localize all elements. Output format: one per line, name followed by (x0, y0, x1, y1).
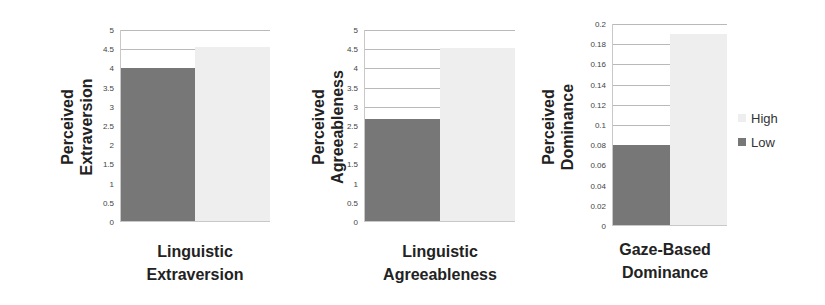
x-axis-label-line1: Linguistic (360, 240, 520, 263)
bar-low (120, 68, 195, 222)
plot-area: 00.020.040.060.080.10.120.140.160.180.2 (612, 24, 727, 226)
y-tick-label: 2.5 (84, 122, 114, 131)
y-axis (612, 24, 613, 226)
legend-label-high: High (751, 111, 778, 126)
y-axis (120, 30, 121, 222)
x-axis-label-line1: Gaze-Based (595, 238, 735, 261)
y-axis-label-line1: Perceived (58, 52, 77, 202)
x-axis (364, 221, 515, 222)
x-axis-label-line2: Agreeableness (360, 263, 520, 286)
legend-item-low: Low (738, 130, 778, 154)
bar-low (364, 119, 440, 222)
x-axis-label: Linguistic Agreeableness (360, 240, 520, 286)
y-tick-label: 0.16 (576, 60, 606, 69)
y-tick-label: 0.08 (576, 141, 606, 150)
y-tick-label: 2.5 (328, 122, 358, 131)
gridline (364, 30, 515, 31)
bar-high (195, 47, 270, 222)
legend-swatch-high (738, 114, 746, 122)
legend: High Low (738, 106, 778, 154)
y-tick-label: 0.5 (328, 198, 358, 207)
y-tick-label: 4.5 (328, 45, 358, 54)
y-tick-label: 2 (84, 141, 114, 150)
y-tick-label: 4 (328, 64, 358, 73)
bar-high (670, 34, 728, 226)
legend-item-high: High (738, 106, 778, 130)
plot-area: 00.511.522.533.544.55 (364, 30, 515, 222)
x-axis-label-line1: Linguistic (120, 240, 270, 263)
y-axis (364, 30, 365, 222)
y-axis-label-line1: Perceived (309, 47, 328, 207)
y-tick-label: 4 (84, 64, 114, 73)
y-tick-label: 0.5 (84, 198, 114, 207)
y-tick-label: 1 (328, 179, 358, 188)
y-tick-label: 0.14 (576, 80, 606, 89)
y-axis-label: Perceived Dominance (539, 52, 577, 202)
chart-dominance: Perceived Dominance 00.020.040.060.080.1… (530, 0, 730, 305)
y-tick-label: 3 (84, 102, 114, 111)
y-tick-label: 3.5 (328, 83, 358, 92)
y-tick-label: 0.12 (576, 100, 606, 109)
chart-agreeableness: Perceived Agreeableness 00.511.522.533.5… (260, 0, 540, 305)
legend-swatch-low (738, 138, 746, 146)
y-tick-label: 5 (84, 26, 114, 35)
x-axis-label: Gaze-Based Dominance (595, 238, 735, 284)
y-tick-label: 5 (328, 26, 358, 35)
y-tick-label: 0 (84, 218, 114, 227)
y-tick-label: 0 (576, 222, 606, 231)
plot-area: 00.511.522.533.544.55 (120, 30, 270, 222)
y-tick-label: 0.04 (576, 181, 606, 190)
y-tick-label: 3 (328, 102, 358, 111)
y-tick-label: 3.5 (84, 83, 114, 92)
y-tick-label: 0.1 (576, 121, 606, 130)
x-axis-label-line2: Dominance (595, 261, 735, 284)
y-tick-label: 0.18 (576, 40, 606, 49)
chart-extraversion: Perceived Extraversion 00.511.522.533.54… (0, 0, 280, 305)
y-tick-label: 2 (328, 141, 358, 150)
bar-low (612, 145, 670, 226)
y-tick-label: 1.5 (84, 160, 114, 169)
y-tick-label: 0.2 (576, 20, 606, 29)
y-tick-label: 0.06 (576, 161, 606, 170)
x-axis (612, 225, 727, 226)
x-axis-label: Linguistic Extraversion (120, 240, 270, 286)
bar-high (440, 48, 516, 222)
x-axis-label-line2: Extraversion (120, 263, 270, 286)
y-tick-label: 1.5 (328, 160, 358, 169)
y-tick-label: 4.5 (84, 45, 114, 54)
y-axis-label-line2: Dominance (558, 52, 577, 202)
y-tick-label: 0 (328, 218, 358, 227)
x-axis (120, 221, 270, 222)
y-tick-label: 0.02 (576, 201, 606, 210)
legend-label-low: Low (751, 135, 775, 150)
gridline (612, 24, 727, 25)
y-axis-label-line1: Perceived (539, 52, 558, 202)
gridline (120, 30, 270, 31)
y-tick-label: 1 (84, 179, 114, 188)
